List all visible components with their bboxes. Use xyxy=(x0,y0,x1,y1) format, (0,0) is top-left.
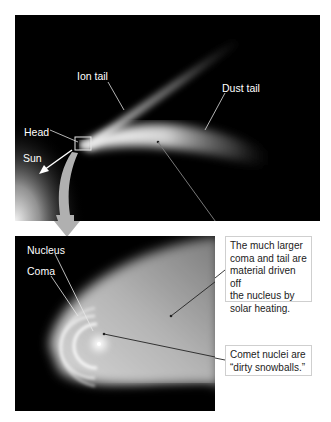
callout-line: Comet nuclei are xyxy=(230,349,307,362)
callout-line: solar heating. xyxy=(230,303,307,316)
callout-line: material driven off xyxy=(230,265,307,290)
callout-line: coma and tail are xyxy=(230,253,307,266)
callout-line: “dirty snowballs.” xyxy=(230,362,307,375)
callout-line: The much larger xyxy=(230,240,307,253)
nuclei-callout: Comet nuclei are “dirty snowballs.” xyxy=(225,345,312,376)
callout-line: the nucleus by xyxy=(230,290,307,303)
coma-tail-callout: The much larger coma and tail are materi… xyxy=(225,236,312,302)
